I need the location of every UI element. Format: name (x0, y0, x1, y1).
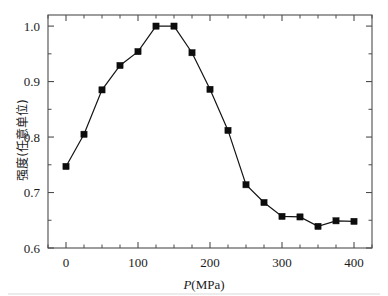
y-axis-title: 强度(任意单位) (15, 99, 30, 180)
data-point-marker (153, 23, 159, 29)
data-point-marker (99, 87, 105, 93)
data-point-marker (171, 23, 177, 29)
data-point-marker (333, 218, 339, 224)
data-point-marker (261, 199, 267, 205)
data-point-marker (225, 127, 231, 133)
x-tick-label-0: 0 (63, 255, 70, 270)
data-point-marker (315, 223, 321, 229)
data-point-marker (243, 182, 249, 188)
x-tick-label-100: 100 (128, 255, 148, 270)
data-point-marker (81, 131, 87, 137)
y-tick-label-1.0: 1.0 (24, 19, 40, 34)
data-point-marker (351, 218, 357, 224)
y-tick-label-0.7: 0.7 (24, 185, 41, 200)
data-point-marker (279, 213, 285, 219)
data-point-marker (63, 163, 69, 169)
y-tick-label-0.9: 0.9 (24, 74, 40, 89)
chart-figure: 0100200300400 0.60.70.80.91.0 P(MPa) 强度(… (0, 0, 388, 296)
x-tick-label-400: 400 (344, 255, 364, 270)
data-point-marker (297, 214, 303, 220)
intensity-vs-pressure-line-chart: 0100200300400 0.60.70.80.91.0 P(MPa) 强度(… (0, 0, 388, 296)
figure-background (0, 0, 388, 296)
data-point-marker (189, 50, 195, 56)
x-tick-label-300: 300 (272, 255, 292, 270)
data-point-marker (117, 62, 123, 68)
x-tick-label-200: 200 (200, 255, 220, 270)
x-axis-title: P(MPa) (182, 277, 224, 292)
data-point-marker (207, 86, 213, 92)
y-tick-label-0.6: 0.6 (24, 241, 41, 256)
data-point-marker (135, 49, 141, 55)
